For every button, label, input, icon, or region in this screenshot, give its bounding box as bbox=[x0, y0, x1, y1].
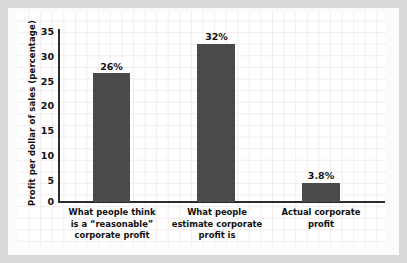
bar-value-label: 32% bbox=[186, 31, 247, 42]
chart-figure: Profit per dollar of sales (percentage) … bbox=[0, 0, 407, 263]
y-tick-label: 30 bbox=[28, 52, 54, 62]
y-tick-label: 35 bbox=[28, 27, 54, 37]
y-tick-label: 25 bbox=[28, 77, 54, 87]
category-label-3: Actual corporate profit bbox=[272, 207, 370, 230]
bar-value-label: 26% bbox=[81, 61, 142, 72]
bar-actual-corporate-profit[interactable] bbox=[302, 183, 340, 202]
y-tick-label: 5 bbox=[28, 176, 54, 186]
bar-chart-plot: Profit per dollar of sales (percentage) … bbox=[0, 0, 407, 263]
category-label-line: estimate corporate bbox=[163, 219, 271, 231]
y-tick-label: 10 bbox=[28, 151, 54, 161]
category-label-line: is a “reasonable” bbox=[58, 219, 166, 231]
category-label-line: profit bbox=[272, 219, 370, 231]
category-label-line: profit is bbox=[163, 230, 271, 242]
category-label-line: What people think bbox=[58, 207, 166, 219]
category-label-line: Actual corporate bbox=[272, 207, 370, 219]
y-tick-label: 0 bbox=[28, 197, 54, 207]
category-label-1: What people think is a “reasonable” corp… bbox=[58, 207, 166, 242]
bar-what-people-think-reasonable[interactable] bbox=[93, 73, 130, 202]
bar-value-label: 3.8% bbox=[290, 170, 352, 181]
category-label-line: corporate profit bbox=[58, 230, 166, 242]
category-label-line: What people bbox=[163, 207, 271, 219]
category-label-2: What people estimate corporate profit is bbox=[163, 207, 271, 242]
y-tick-label: 20 bbox=[28, 101, 54, 111]
y-axis-line bbox=[58, 29, 60, 203]
bar-what-people-estimate[interactable] bbox=[197, 44, 235, 202]
y-axis-tick-labels: 35 30 25 20 15 10 5 0 bbox=[28, 0, 54, 263]
y-tick-label: 15 bbox=[28, 126, 54, 136]
